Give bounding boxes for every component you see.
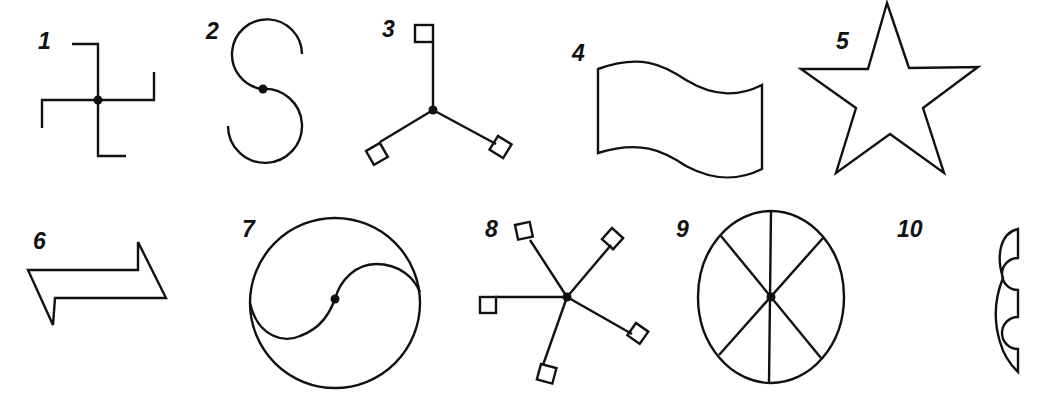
symbol-1-hooked-cross-icon <box>42 44 154 156</box>
symbol-3-triskele-icon <box>366 25 512 165</box>
symbol-9-wheel-icon <box>698 211 844 383</box>
symbol-4-flag-icon <box>598 62 762 178</box>
symbol-5-star-icon <box>801 3 978 173</box>
symbol-10-scalloped-bracket-icon <box>996 229 1018 372</box>
symbol-figure-plate: 1 2 3 4 5 6 7 8 9 10 <box>0 0 1057 412</box>
symbol-2-s-curve-icon <box>228 19 302 163</box>
symbol-6-offset-arrow-icon <box>28 242 166 325</box>
symbols-canvas <box>0 0 1057 412</box>
symbol-8-radial-arms-icon <box>480 222 648 384</box>
symbol-7-yin-yang-icon <box>250 218 420 388</box>
